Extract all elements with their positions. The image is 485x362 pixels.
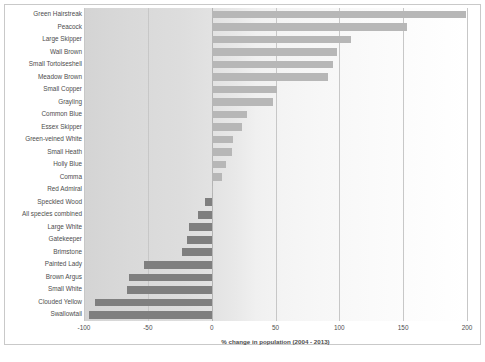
bar-row bbox=[84, 258, 467, 271]
category-label: Large White bbox=[48, 221, 82, 234]
bar bbox=[144, 261, 212, 269]
x-tick-label: -50 bbox=[143, 324, 152, 331]
bar bbox=[205, 198, 211, 206]
category-label: Small Copper bbox=[43, 83, 82, 96]
bar-row bbox=[84, 133, 467, 146]
category-label: Peacock bbox=[57, 21, 82, 34]
bar bbox=[212, 48, 337, 56]
category-label: Small Tortoiseshell bbox=[29, 58, 82, 71]
category-label: Comma bbox=[60, 171, 82, 184]
gridline-200 bbox=[467, 8, 468, 321]
bar-row bbox=[84, 146, 467, 159]
category-label: Small Heath bbox=[47, 146, 82, 159]
category-label: Wall Brown bbox=[50, 46, 82, 59]
bar-row bbox=[84, 21, 467, 34]
category-label: Essex Skipper bbox=[41, 121, 82, 134]
bar bbox=[89, 311, 212, 319]
category-label: Large Skipper bbox=[42, 33, 82, 46]
bar bbox=[212, 123, 243, 131]
category-label: Gatekeeper bbox=[49, 233, 82, 246]
bar-row bbox=[84, 108, 467, 121]
category-label: Green-veined White bbox=[25, 133, 82, 146]
bar bbox=[212, 61, 333, 69]
category-label: Clouded Yellow bbox=[38, 296, 82, 309]
bar bbox=[95, 299, 211, 307]
category-label: Brimstone bbox=[53, 246, 82, 259]
bar-row bbox=[84, 221, 467, 234]
bar bbox=[212, 186, 213, 194]
bar bbox=[212, 161, 226, 169]
bar-row bbox=[84, 158, 467, 171]
category-label: Green Hairstreak bbox=[33, 8, 82, 21]
bar-row bbox=[84, 33, 467, 46]
bar-rows bbox=[84, 8, 467, 321]
bar-row bbox=[84, 96, 467, 109]
bar bbox=[129, 274, 212, 282]
bar bbox=[212, 136, 234, 144]
category-axis-labels: Green HairstreakPeacockLarge SkipperWall… bbox=[4, 8, 82, 321]
butterfly-population-change-chart: Green HairstreakPeacockLarge SkipperWall… bbox=[0, 0, 485, 362]
plot-area bbox=[84, 8, 467, 321]
bar-row bbox=[84, 183, 467, 196]
bar-row bbox=[84, 8, 467, 21]
bar-row bbox=[84, 283, 467, 296]
bar-row bbox=[84, 246, 467, 259]
bar-row bbox=[84, 233, 467, 246]
bar-row bbox=[84, 296, 467, 309]
bar-row bbox=[84, 71, 467, 84]
x-tick-label: 100 bbox=[334, 324, 345, 331]
x-tick-label: 200 bbox=[462, 324, 473, 331]
category-label: All species combined bbox=[22, 208, 82, 221]
x-tick-label: 150 bbox=[398, 324, 409, 331]
bar-row bbox=[84, 308, 467, 321]
bar bbox=[198, 211, 212, 219]
x-axis-tick-labels: -100-50050100150200 bbox=[84, 324, 467, 336]
category-label: Speckled Wood bbox=[37, 196, 82, 209]
bar-row bbox=[84, 171, 467, 184]
category-label: Holly Blue bbox=[53, 158, 82, 171]
bar-row bbox=[84, 208, 467, 221]
category-label: Common Blue bbox=[42, 108, 83, 121]
x-tick-label: -100 bbox=[78, 324, 91, 331]
category-label: Swallowtail bbox=[50, 308, 82, 321]
category-label: Painted Lady bbox=[45, 258, 82, 271]
bar-row bbox=[84, 271, 467, 284]
bar bbox=[212, 73, 328, 81]
x-tick-label: 0 bbox=[210, 324, 214, 331]
x-tick-label: 50 bbox=[272, 324, 279, 331]
category-label: Grayling bbox=[58, 96, 82, 109]
bar bbox=[212, 11, 466, 19]
bar bbox=[189, 223, 212, 231]
bar bbox=[212, 98, 273, 106]
bar bbox=[127, 286, 211, 294]
category-label: Small White bbox=[48, 283, 82, 296]
bar bbox=[212, 36, 351, 44]
x-axis-title: % change in population (2004 - 2013) bbox=[84, 338, 467, 345]
bar bbox=[182, 248, 211, 256]
bar-row bbox=[84, 196, 467, 209]
category-label: Meadow Brown bbox=[38, 71, 82, 84]
bar-row bbox=[84, 121, 467, 134]
bar-row bbox=[84, 46, 467, 59]
bar bbox=[212, 86, 277, 94]
bar bbox=[212, 23, 407, 31]
bar bbox=[212, 173, 222, 181]
bar bbox=[212, 111, 248, 119]
category-label: Red Admiral bbox=[47, 183, 82, 196]
category-label: Brown Argus bbox=[46, 271, 82, 284]
bar bbox=[212, 148, 232, 156]
bar-row bbox=[84, 83, 467, 96]
bar-row bbox=[84, 58, 467, 71]
bar bbox=[187, 236, 211, 244]
